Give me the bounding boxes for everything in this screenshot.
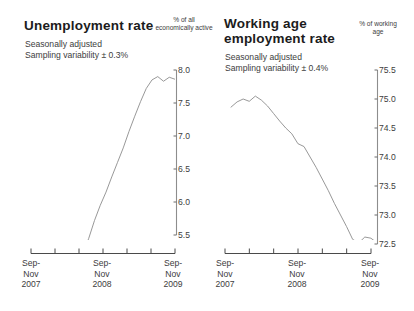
y-axis-svg bbox=[172, 62, 182, 240]
y-axis-tick-label: 73.0 bbox=[379, 210, 396, 220]
plot-area-unemployment bbox=[25, 62, 175, 240]
page-title: Working age employment rate bbox=[224, 16, 369, 46]
page-title: Unemployment rate bbox=[24, 18, 174, 33]
x-axis-employment bbox=[219, 245, 384, 257]
y-axis-tick-label: 7.5 bbox=[178, 98, 190, 108]
y-axis-unit-label: % of all economically active bbox=[155, 16, 213, 33]
line-chart-svg-unemployment bbox=[25, 62, 175, 240]
plot-area-employment bbox=[225, 62, 377, 240]
x-axis-ticks bbox=[225, 249, 371, 254]
x-axis-tick-label: Sep- Nov 2007 bbox=[11, 258, 51, 290]
y-axis-tick-label: 5.5 bbox=[178, 230, 190, 240]
chart-panel-working-age-employment-rate: Working age employment rate Seasonally a… bbox=[207, 0, 414, 311]
y-axis-unit-label: % of working age bbox=[355, 20, 401, 37]
x-axis-tick-label: Sep- Nov 2008 bbox=[277, 258, 317, 290]
y-axis-unemployment bbox=[172, 62, 182, 240]
y-axis-tick-label: 6.5 bbox=[178, 164, 190, 174]
y-axis-tick-label: 74.5 bbox=[379, 123, 396, 133]
x-axis-tick-label: Sep- Nov 2007 bbox=[205, 258, 245, 290]
subtitle-sampling-variability: Sampling variability ± 0.3% bbox=[25, 50, 128, 61]
y-axis-tick-label: 8.0 bbox=[178, 65, 190, 75]
y-axis-tick-label: 7.0 bbox=[178, 131, 190, 141]
line-chart-svg-employment bbox=[225, 62, 377, 240]
y-axis-tick-label: 75.0 bbox=[379, 94, 396, 104]
x-axis-svg bbox=[219, 245, 384, 257]
data-line bbox=[37, 77, 175, 240]
y-axis-tick-label: 73.5 bbox=[379, 181, 396, 191]
y-axis-tick-label: 6.0 bbox=[178, 197, 190, 207]
x-axis-tick-label: Sep- Nov 2009 bbox=[153, 258, 193, 290]
y-axis-tick-label: 74.0 bbox=[379, 152, 396, 162]
y-axis-tick-label: 75.5 bbox=[379, 65, 396, 75]
x-axis-tick-label: Sep- Nov 2009 bbox=[350, 258, 390, 290]
x-axis-svg bbox=[25, 245, 180, 257]
x-axis-unemployment bbox=[25, 245, 180, 257]
data-line bbox=[231, 96, 377, 240]
figure-container: Unemployment rate Seasonally adjusted Sa… bbox=[0, 0, 414, 311]
x-axis-tick-label: Sep- Nov 2008 bbox=[82, 258, 122, 290]
subtitle-seasonally-adjusted: Seasonally adjusted bbox=[25, 39, 102, 50]
x-axis-ticks bbox=[31, 249, 175, 254]
chart-panel-unemployment-rate: Unemployment rate Seasonally adjusted Sa… bbox=[0, 0, 207, 311]
